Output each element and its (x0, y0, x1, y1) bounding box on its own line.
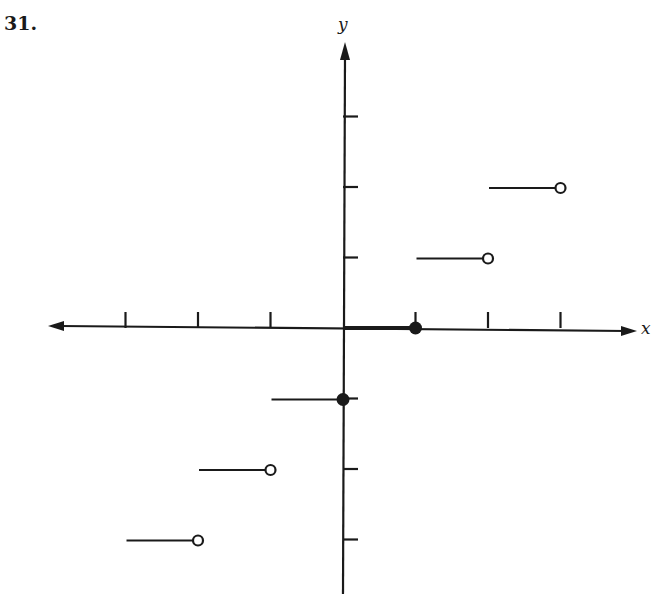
open-endpoint-icon (483, 254, 493, 264)
open-endpoint-icon (193, 536, 203, 546)
open-endpoint-icon (266, 465, 276, 475)
closed-endpoint-icon (409, 322, 422, 335)
y-axis-up-arrow-icon (340, 42, 350, 60)
y-axis-line (343, 55, 345, 594)
x-axis-right-arrow-icon (621, 326, 637, 336)
x-axis-left-arrow-icon (48, 321, 64, 331)
closed-endpoint-icon (337, 393, 350, 406)
open-endpoint-icon (556, 183, 566, 193)
step-function-graph (0, 0, 657, 594)
